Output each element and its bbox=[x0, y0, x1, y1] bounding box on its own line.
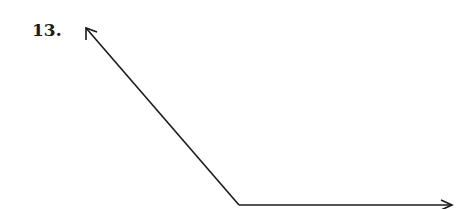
ray-upper-left bbox=[86, 28, 239, 205]
angle-figure bbox=[0, 0, 474, 209]
ray-right bbox=[239, 200, 452, 209]
